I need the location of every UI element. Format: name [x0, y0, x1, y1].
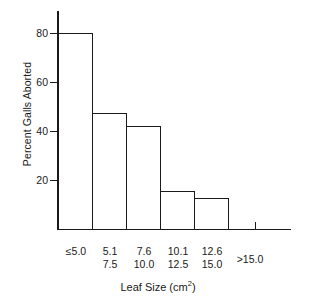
bar-leaf-size-7.6-10.0[interactable]: [126, 126, 161, 229]
chart-figure: Percent Galls Aborted 20 40 60 80 ≤5.0 5…: [0, 0, 316, 307]
y-tick-mark-80: [50, 33, 58, 34]
bar-leaf-size-12.6-15.0[interactable]: [194, 198, 229, 229]
y-tick-label-60: 60: [8, 77, 48, 88]
y-tick-label-20: 20: [8, 175, 48, 186]
x-axis-title-tail: ): [192, 281, 196, 293]
x-tick-mark-gt-15.0: [255, 222, 256, 229]
x-tick-label-gt-15.0: >15.0: [222, 253, 278, 266]
bar-leaf-size-le-5.0[interactable]: [58, 33, 93, 229]
y-tick-label-80: 80: [8, 28, 48, 39]
y-tick-label-40: 40: [8, 126, 48, 137]
bar-leaf-size-10.1-12.5[interactable]: [160, 191, 195, 229]
y-tick-mark-20: [50, 180, 58, 181]
x-axis-title: Leaf Size (cm2): [0, 281, 316, 293]
y-tick-mark-40: [50, 131, 58, 132]
y-tick-mark-60: [50, 82, 58, 83]
x-axis-title-main: Leaf Size (cm: [120, 281, 187, 293]
y-axis-title: Percent Galls Aborted: [21, 29, 33, 199]
bar-leaf-size-5.1-7.5[interactable]: [92, 113, 127, 229]
